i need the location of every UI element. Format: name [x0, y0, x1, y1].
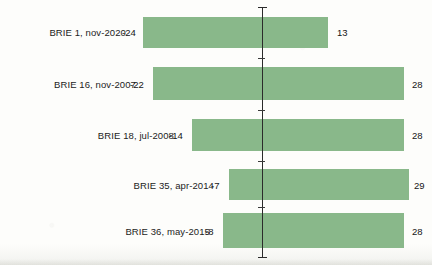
bar-positive: [262, 169, 409, 200]
positive-value-label: 28: [412, 130, 423, 141]
positive-value-label: 28: [412, 79, 423, 90]
bar-negative: [153, 67, 262, 100]
positive-value-label: 13: [337, 27, 348, 38]
axis-tick: [258, 207, 265, 208]
bar-positive: [262, 213, 404, 248]
category-label: BRIE 18, jul-2008: [98, 130, 174, 141]
category-label: BRIE 16, nov-2007: [54, 79, 136, 90]
negative-value-label: -22: [130, 79, 144, 90]
negative-value-label: -8: [205, 226, 213, 237]
category-label: BRIE 36, may-2015: [125, 226, 210, 237]
diverging-bar-chart: BRIE 1, nov-2020 -24 13 BRIE 16, nov-200…: [0, 0, 432, 265]
positive-value-label: 28: [412, 226, 423, 237]
negative-value-label: -14: [169, 130, 183, 141]
category-label: BRIE 1, nov-2020: [49, 27, 126, 38]
bar-negative: [229, 169, 262, 200]
axis-tick: [258, 161, 265, 162]
bar-positive: [262, 119, 404, 151]
negative-value-label: -24: [122, 27, 136, 38]
axis-top-cap: [258, 7, 267, 8]
bar-negative: [192, 119, 262, 151]
axis-tick: [258, 58, 265, 59]
negative-value-label: -7: [211, 180, 219, 191]
bar-positive: [262, 17, 328, 48]
bar-negative: [223, 213, 262, 248]
bar-negative: [143, 17, 262, 48]
scan-edge-artifact: [0, 259, 432, 265]
zero-axis-line: [262, 7, 263, 258]
positive-value-label: 29: [414, 180, 425, 191]
category-label: BRIE 35, apr-2014: [134, 180, 214, 191]
axis-tick: [258, 110, 265, 111]
bar-positive: [262, 67, 404, 100]
